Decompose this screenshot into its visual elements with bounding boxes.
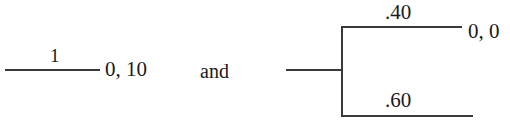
left-branch-edge: [5, 69, 100, 71]
right-stem-edge: [286, 69, 343, 71]
figure-canvas: 1 0, 10 and .40 .60 0, 0: [0, 0, 510, 138]
right-bottom-branch-probability-label: .60: [385, 90, 411, 111]
conjunction-label: and: [200, 61, 229, 81]
right-top-branch-edge: [341, 26, 462, 28]
right-chance-node-spine: [341, 26, 343, 116]
right-bottom-branch-edge: [341, 115, 473, 117]
right-top-payoff-label: 0, 0: [468, 21, 500, 42]
left-payoff-label: 0, 10: [105, 59, 147, 80]
left-branch-probability-label: 1: [50, 46, 60, 65]
right-top-branch-probability-label: .40: [385, 2, 411, 23]
